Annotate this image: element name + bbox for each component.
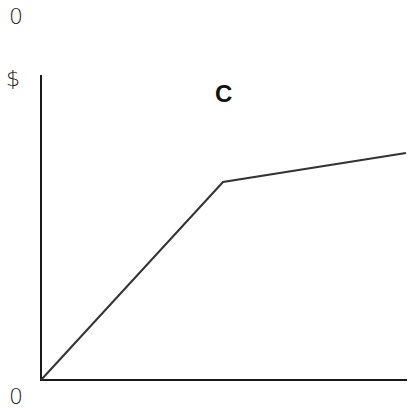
chart-canvas — [0, 0, 410, 412]
cost-line — [41, 153, 406, 380]
